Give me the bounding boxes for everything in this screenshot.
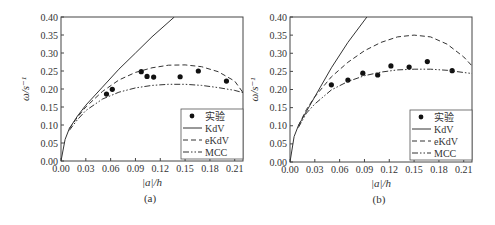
chart-panel-b: 0.000.050.100.150.200.250.300.350.400.00… [248, 12, 472, 207]
y-tick-label: 0.15 [270, 102, 288, 113]
legend-entry: MCC [434, 148, 457, 159]
legend-entry: eKdV [205, 135, 230, 146]
y-axis-label: ω/s⁻¹ [248, 77, 260, 101]
y-tick-label: 0.40 [270, 12, 288, 23]
y-tick-label: 0.25 [41, 66, 59, 77]
x-tick-label: 0.18 [201, 163, 219, 174]
y-tick-label: 0.30 [270, 48, 288, 59]
data-point [196, 68, 201, 73]
legend: 实验KdVeKdVMCC [410, 110, 472, 160]
x-tick-label: 0.12 [381, 164, 399, 175]
x-tick-label: 0.00 [281, 164, 299, 175]
chart-figure: 0.000.050.100.150.200.250.300.350.400.00… [0, 0, 495, 225]
data-point [360, 71, 365, 76]
x-tick-label: 0.15 [405, 164, 423, 175]
chart-panel-a: 0.000.050.100.150.200.250.300.350.400.00… [19, 12, 243, 206]
data-point [151, 75, 156, 80]
y-tick-label: 0.10 [270, 120, 288, 131]
legend-entry: 实验 [434, 111, 454, 123]
legend-entry: 实验 [205, 110, 225, 122]
data-point [110, 87, 115, 92]
x-tick-label: 0.06 [331, 164, 349, 175]
x-tick-label: 0.21 [226, 163, 244, 174]
x-tick-label: 0.12 [152, 163, 170, 174]
series-kdv [61, 17, 174, 161]
y-tick-label: 0.30 [41, 48, 59, 59]
data-point [388, 63, 393, 68]
y-tick-label: 0.05 [41, 138, 59, 149]
legend-entry: KdV [434, 124, 454, 135]
data-point [329, 82, 334, 87]
y-tick-label: 0.20 [270, 84, 288, 95]
data-point [144, 74, 149, 79]
legend-entry: eKdV [434, 136, 459, 147]
x-axis-label: |a|/h [371, 177, 392, 189]
x-tick-label: 0.06 [102, 163, 120, 174]
x-tick-label: 0.03 [77, 163, 95, 174]
x-tick-label: 0.18 [430, 164, 448, 175]
y-tick-label: 0.35 [41, 30, 59, 41]
x-tick-label: 0.21 [455, 164, 473, 175]
x-tick-label: 0.09 [127, 163, 145, 174]
y-tick-label: 0.15 [41, 102, 59, 113]
y-axis-label: ω/s⁻¹ [19, 77, 31, 101]
x-tick-label: 0.09 [356, 164, 374, 175]
data-point [224, 78, 229, 83]
legend-entry: MCC [205, 147, 228, 158]
panel-caption: (b) [373, 193, 386, 206]
y-tick-label: 0.40 [41, 12, 59, 23]
panel-caption: (a) [144, 192, 157, 205]
y-tick-label: 0.35 [270, 30, 288, 41]
x-tick-label: 0.03 [306, 164, 324, 175]
legend: 实验KdVeKdVMCC [181, 109, 243, 159]
x-tick-label: 0.00 [52, 163, 70, 174]
data-point [178, 74, 183, 79]
y-tick-label: 0.20 [41, 84, 59, 95]
y-tick-label: 0.10 [41, 120, 59, 131]
y-tick-label: 0.25 [270, 66, 288, 77]
y-tick-label: 0.05 [270, 138, 288, 149]
legend-entry: KdV [205, 123, 225, 134]
data-point [407, 64, 412, 69]
series-kdv [290, 17, 367, 162]
x-axis-label: |a|/h [142, 176, 163, 188]
data-point [104, 91, 109, 96]
data-point [425, 59, 430, 64]
x-tick-label: 0.15 [176, 163, 194, 174]
